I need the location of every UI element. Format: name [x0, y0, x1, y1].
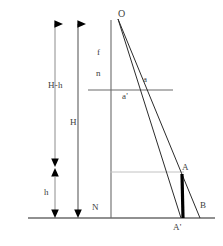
label-object-top-A: A: [182, 163, 189, 172]
diagram-canvas: [0, 0, 223, 246]
label-height-total: H: [70, 118, 77, 127]
label-object-bottom-A-prime: A': [173, 223, 182, 232]
label-image-a-prime: a': [122, 92, 128, 101]
label-image-a: a: [143, 75, 147, 84]
label-nodal-N: N: [92, 203, 99, 212]
figure-root: O f n a a' H-h H h N A A' B: [0, 0, 223, 246]
object-bar: [182, 174, 183, 218]
label-focal-f: f: [97, 48, 100, 57]
label-height-diff: H-h: [48, 81, 63, 90]
label-height-small: h: [44, 188, 49, 197]
ray-o-to-b: [118, 19, 200, 218]
arrow-h-top: [51, 168, 59, 177]
ray-o-to-a-prime: [118, 19, 181, 218]
arrow-H-bottom: [74, 209, 82, 218]
label-ray-end-B: B: [200, 201, 206, 210]
label-near-n: n: [96, 69, 101, 78]
arrow-hh-bottom: [51, 158, 59, 167]
arrow-h-bottom: [51, 209, 59, 218]
label-apex-O: O: [118, 9, 125, 19]
